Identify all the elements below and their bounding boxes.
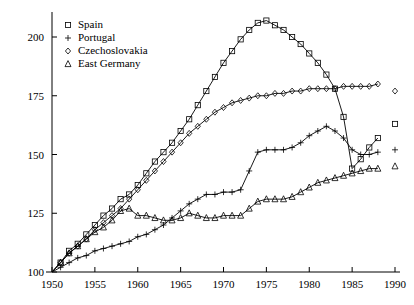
legend-label-czechoslovakia: Czechoslovakia <box>78 44 148 56</box>
marker-plus <box>66 260 72 266</box>
x-tick-label: 1980 <box>298 278 321 290</box>
legend-label-east-germany: East Germany <box>78 57 141 69</box>
marker-triangle <box>65 61 71 67</box>
marker-plus <box>272 147 278 153</box>
x-tick-label: 1965 <box>170 278 193 290</box>
series-east-germany <box>52 163 398 272</box>
chart-container: 1001251501752001950195519601965197019751… <box>0 0 414 305</box>
y-tick-label: 200 <box>28 31 45 43</box>
marker-plus <box>255 149 261 155</box>
marker-square <box>65 22 70 27</box>
marker-plus <box>392 147 398 153</box>
marker-plus <box>143 231 149 237</box>
line-chart: 1001251501752001950195519601965197019751… <box>0 0 414 305</box>
marker-plus <box>229 189 235 195</box>
marker-plus <box>109 243 115 249</box>
x-tick-label: 1985 <box>341 278 364 290</box>
x-tick-label: 1970 <box>213 278 236 290</box>
x-tick-label: 1960 <box>127 278 150 290</box>
marker-plus <box>366 152 372 158</box>
marker-square <box>392 121 397 126</box>
x-tick-label: 1990 <box>384 278 407 290</box>
marker-plus <box>221 189 227 195</box>
x-tick-label: 1975 <box>255 278 278 290</box>
marker-plus <box>152 227 158 233</box>
marker-plus <box>195 196 201 202</box>
y-tick-label: 150 <box>28 149 45 161</box>
x-tick-label: 1950 <box>41 278 64 290</box>
marker-plus <box>246 168 252 174</box>
marker-plus <box>83 253 89 259</box>
marker-plus <box>349 147 355 153</box>
marker-plus <box>118 241 124 247</box>
marker-plus <box>65 35 71 41</box>
series-portugal <box>52 123 398 272</box>
legend-label-spain: Spain <box>78 18 104 30</box>
marker-plus <box>375 149 381 155</box>
marker-plus <box>75 255 81 261</box>
marker-plus <box>92 248 98 254</box>
marker-plus <box>126 238 132 244</box>
x-tick-label: 1955 <box>84 278 107 290</box>
marker-diamond <box>392 88 397 94</box>
marker-plus <box>323 123 329 129</box>
marker-diamond <box>65 48 70 54</box>
legend: SpainPortugalCzechoslovakiaEast Germany <box>65 18 148 69</box>
marker-plus <box>281 147 287 153</box>
y-tick-label: 125 <box>28 207 45 219</box>
marker-plus <box>315 128 321 134</box>
legend-label-portugal: Portugal <box>78 31 115 43</box>
y-tick-label: 100 <box>28 266 45 278</box>
marker-triangle <box>392 163 398 169</box>
marker-plus <box>203 191 209 197</box>
marker-plus <box>238 187 244 193</box>
marker-plus <box>263 147 269 153</box>
marker-plus <box>135 234 141 240</box>
marker-plus <box>100 246 106 252</box>
y-tick-label: 175 <box>28 90 45 102</box>
marker-plus <box>212 191 218 197</box>
marker-plus <box>289 144 295 150</box>
